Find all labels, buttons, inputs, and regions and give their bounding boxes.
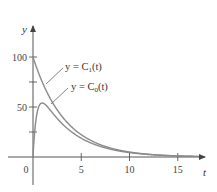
y-tick-label: 100: [12, 52, 27, 63]
x-axis-label: t: [203, 166, 207, 178]
c0-leader-line: [51, 88, 68, 104]
c1-label: y = C1(t): [65, 61, 102, 74]
chart: 05101550100 y t y = C1(t) y = C0(t): [0, 0, 217, 192]
x-tick-label: 10: [125, 164, 135, 175]
c1-leader-line: [46, 68, 63, 84]
x-tick-label: 0: [24, 164, 29, 175]
curve-c1: [33, 57, 199, 156]
y-axis-label: y: [21, 23, 27, 35]
x-tick-label: 5: [79, 164, 84, 175]
x-tick-label: 15: [173, 164, 183, 175]
c0-label: y = C0(t): [71, 81, 108, 94]
y-tick-label: 50: [17, 102, 27, 113]
